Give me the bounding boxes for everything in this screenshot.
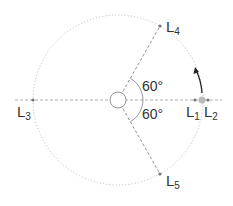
point-l3 <box>31 98 34 101</box>
primary-body <box>110 92 126 108</box>
point-l5 <box>158 172 161 175</box>
diagram-canvas: L4 L5 L3 L1 L2 60° 60° <box>0 0 233 206</box>
point-l1 <box>193 98 196 101</box>
lagrange-diagram: L4 L5 L3 L1 L2 60° 60° <box>0 0 233 206</box>
angle-label-upper: 60° <box>142 78 163 94</box>
label-l4: L4 <box>166 18 180 37</box>
angle-label-lower: 60° <box>142 106 163 122</box>
point-l2 <box>206 98 209 101</box>
point-l4 <box>158 24 161 27</box>
label-l3: L3 <box>17 103 31 122</box>
label-l1: L1 <box>186 103 200 122</box>
label-l5: L5 <box>166 172 180 191</box>
label-l2: L2 <box>204 103 218 122</box>
